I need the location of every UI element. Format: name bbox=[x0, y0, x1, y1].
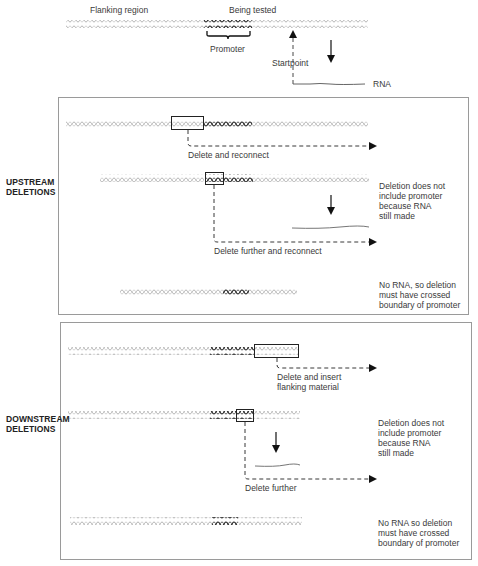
downstream-row1-flank-right bbox=[254, 347, 298, 355]
upstream-step1-label: Delete and reconnect bbox=[188, 150, 269, 160]
transcription-arrow-icon bbox=[327, 55, 335, 63]
upstream-note-rna-made: Deletion does not include promoter becau… bbox=[379, 181, 445, 221]
promoter-dna bbox=[204, 20, 252, 28]
downstream-row2-dashed-arrow bbox=[245, 422, 372, 479]
downstream-note-rna-made: Deletion does not include promoter becau… bbox=[378, 418, 444, 458]
upstream-row1-flank-right bbox=[252, 119, 368, 127]
downstream-note-no-rna: No RNA so deletion must have crossed bou… bbox=[378, 518, 459, 548]
upstream-row3-flank-left bbox=[120, 287, 223, 295]
upstream-row2-flank-right bbox=[253, 174, 369, 182]
downstream-row2-flank-left bbox=[68, 411, 210, 419]
upstream-row2-dashed-arrow bbox=[214, 185, 372, 242]
downstream-row1-flank-left bbox=[68, 347, 210, 355]
upstream-row1-promoter bbox=[204, 119, 252, 127]
upstream-note-no-rna: No RNA, so deletion must have crossed bo… bbox=[379, 280, 460, 310]
upstream-row1-flank-left bbox=[66, 119, 204, 127]
promoter-brace bbox=[207, 31, 250, 39]
upstream-row3-flank-right bbox=[249, 287, 297, 295]
downstream-deletions-heading: DOWNSTREAM DELETIONS bbox=[6, 414, 70, 434]
downstream-row1-dashed-arrow bbox=[277, 358, 372, 368]
downstream-row1-arrowhead-icon bbox=[369, 364, 377, 372]
rna-line bbox=[293, 84, 365, 85]
upstream-row1-dashed-arrow bbox=[188, 130, 372, 146]
upstream-row2-down-arrow-icon bbox=[327, 207, 335, 215]
startpoint-arrow-icon bbox=[289, 30, 297, 38]
downstream-row1-promoter bbox=[210, 347, 254, 355]
downstream-row2-promoter bbox=[210, 411, 254, 419]
downstream-row2-rna-line bbox=[255, 464, 300, 466]
reference-dna bbox=[66, 20, 368, 28]
startpoint-label: Startpoint bbox=[272, 58, 308, 68]
being-tested-label: Being tested bbox=[229, 5, 276, 15]
upstream-row2-promoter bbox=[205, 174, 253, 182]
downstream-row2-flank-right bbox=[254, 411, 300, 419]
upstream-row2-rna-line bbox=[292, 226, 369, 228]
upstream-row2-flank-left bbox=[100, 174, 204, 182]
downstream-row3-flank-left bbox=[70, 517, 212, 525]
flanking-region-label: Flanking region bbox=[90, 5, 148, 15]
downstream-step1-label: Delete and insert flanking material bbox=[277, 372, 341, 392]
rna-label: RNA bbox=[373, 79, 391, 89]
downstream-row2-arrowhead-icon bbox=[369, 475, 377, 483]
downstream-row2-down-arrow-icon bbox=[272, 445, 280, 453]
flanking-dna-right bbox=[252, 20, 368, 28]
downstream-step2-label: Delete further bbox=[245, 483, 297, 493]
downstream-row3-promoter bbox=[212, 517, 238, 525]
flanking-dna-left bbox=[66, 20, 204, 28]
upstream-row3-promoter bbox=[223, 287, 249, 295]
upstream-step2-label: Delete further and reconnect bbox=[214, 246, 322, 256]
upstream-row2-arrowhead-icon bbox=[369, 238, 377, 246]
downstream-row3-flank-right bbox=[238, 517, 302, 525]
promoter-label: Promoter bbox=[210, 44, 245, 54]
upstream-row1-arrowhead-icon bbox=[369, 142, 377, 150]
upstream-deletions-heading: UPSTREAM DELETIONS bbox=[6, 177, 56, 197]
